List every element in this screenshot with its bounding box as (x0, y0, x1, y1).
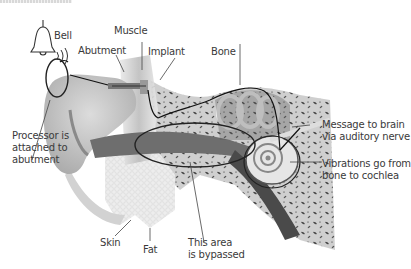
label-fat: Fat (143, 244, 157, 256)
label-bell: Bell (54, 30, 72, 42)
label-bone: Bone (211, 46, 236, 58)
bell-icon (31, 20, 55, 55)
label-message-to-brain: Message to brain via auditory nerve (322, 119, 410, 143)
label-implant: Implant (148, 46, 185, 58)
label-skin: Skin (100, 237, 120, 249)
label-processor: Processor is attached to abutment (12, 130, 69, 166)
label-muscle: Muscle (114, 25, 147, 37)
label-abutment: Abutment (78, 45, 126, 57)
label-bypassed: This area is bypassed (188, 237, 245, 261)
cochlea (246, 136, 298, 184)
label-vibrations: Vibrations go from bone to cochlea (322, 158, 411, 182)
